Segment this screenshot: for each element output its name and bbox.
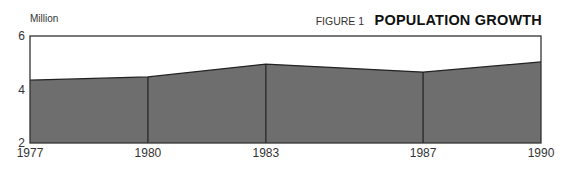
x-tick-label: 1987	[410, 146, 437, 160]
x-tick-label: 1977	[17, 146, 44, 160]
y-tick-label: 6	[18, 29, 25, 43]
y-axis-ticks: 246	[18, 29, 25, 150]
x-axis-ticks: 19771980198319871990	[17, 146, 555, 160]
population-area	[30, 62, 541, 143]
data-area	[30, 62, 541, 143]
area-chart: 246 19771980198319871990	[0, 0, 562, 183]
x-tick-label: 1983	[252, 146, 279, 160]
x-tick-label: 1990	[528, 146, 555, 160]
y-tick-label: 4	[18, 83, 25, 97]
x-tick-label: 1980	[135, 146, 162, 160]
